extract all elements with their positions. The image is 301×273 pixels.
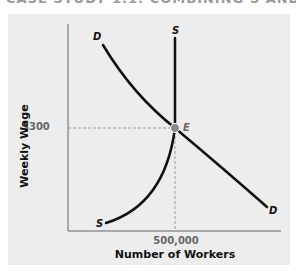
x-tick-500000: 500,000 — [150, 235, 202, 246]
supply-label-top: S — [172, 25, 179, 36]
equilibrium-point — [171, 124, 180, 133]
y-axis-label: Weekly Wage — [18, 86, 36, 206]
equilibrium-label: E — [183, 122, 190, 133]
x-axis-label: Number of Workers — [100, 248, 250, 261]
supply-label-bottom: S — [96, 218, 103, 229]
labor-market-chart — [0, 0, 301, 273]
demand-label-bottom: D — [269, 205, 277, 216]
demand-label-top: D — [93, 31, 101, 42]
